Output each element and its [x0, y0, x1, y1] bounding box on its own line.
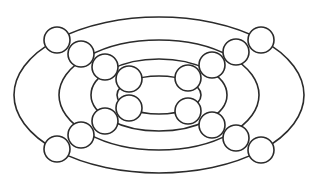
concentric-ellipse-diagram	[0, 0, 313, 190]
node-circle-tl-2	[68, 41, 94, 67]
circle-nodes	[44, 27, 274, 163]
node-circle-br-1	[248, 137, 274, 163]
node-circle-br-2	[223, 125, 249, 151]
node-circle-bl-4	[116, 95, 142, 121]
node-circle-bl-3	[92, 108, 118, 134]
node-circle-bl-2	[68, 122, 94, 148]
node-circle-tl-1	[44, 27, 70, 53]
node-circle-bl-1	[44, 136, 70, 162]
node-circle-br-4	[175, 98, 201, 124]
node-circle-tr-2	[223, 39, 249, 65]
node-circle-tr-4	[175, 65, 201, 91]
node-circle-tr-3	[199, 52, 225, 78]
node-circle-tl-3	[92, 54, 118, 80]
node-circle-tl-4	[116, 66, 142, 92]
node-circle-tr-1	[248, 27, 274, 53]
diagram-canvas	[0, 0, 313, 190]
node-circle-br-3	[199, 112, 225, 138]
